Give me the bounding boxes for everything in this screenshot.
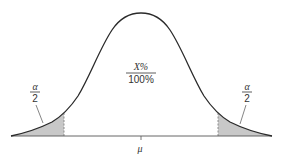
right-tail-shaded-region	[218, 113, 272, 136]
mean-label: μ	[136, 143, 142, 154]
left-tail-label-numerator: α	[32, 81, 38, 92]
right-tail-label-numerator: α	[244, 81, 250, 92]
right-tail-label-denominator: 2	[244, 93, 250, 104]
right-tail-leader-line	[240, 105, 246, 124]
left-tail-shaded-region	[11, 113, 64, 136]
center-label-denominator: 100%	[128, 74, 154, 85]
left-tail-label-denominator: 2	[32, 93, 38, 104]
left-tail-leader-line	[36, 105, 43, 123]
center-label-numerator: X%	[133, 61, 148, 72]
normal-distribution-diagram: μ X% 100% α 2 α 2	[0, 0, 282, 160]
